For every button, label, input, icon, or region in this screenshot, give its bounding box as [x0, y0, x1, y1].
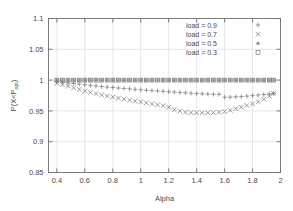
x-axis-tick-labels: 0.40.60.811.21.41.61.82 — [52, 176, 283, 185]
y-tick-label: 0.9 — [33, 137, 43, 146]
x-tick-label: 0.6 — [80, 176, 90, 185]
legend-label-3: load = 0.3 — [186, 49, 217, 56]
y-tick-label: 0.85 — [29, 168, 44, 177]
x-axis-title: Alpha — [155, 194, 175, 203]
legend-label-2: load = 0.5 — [186, 40, 217, 47]
x-tick-label: 1.8 — [247, 176, 257, 185]
x-tick-label: 0.4 — [52, 176, 62, 185]
y-tick-label: 1.05 — [29, 45, 44, 54]
x-tick-label: 1.2 — [163, 176, 173, 185]
y-axis-title-main: P(X<P — [9, 89, 18, 111]
x-tick-label: 2 — [278, 176, 282, 185]
y-tick-label: 1 — [39, 76, 43, 85]
y-tick-label: 1.1 — [33, 14, 43, 23]
chart-figure: 0.40.60.811.21.41.61.82 0.850.90.9511.05… — [0, 0, 293, 211]
x-tick-label: 1.4 — [191, 176, 201, 185]
scatter-plot: 0.40.60.811.21.41.61.82 0.850.90.9511.05… — [0, 0, 293, 211]
x-tick-label: 1.6 — [219, 176, 229, 185]
x-tick-label: 1 — [139, 176, 143, 185]
x-tick-label: 0.8 — [108, 176, 118, 185]
legend-label-1: load = 0.7 — [186, 31, 217, 38]
y-tick-label: 0.95 — [29, 107, 44, 116]
legend-label-0: load = 0.9 — [186, 22, 217, 29]
